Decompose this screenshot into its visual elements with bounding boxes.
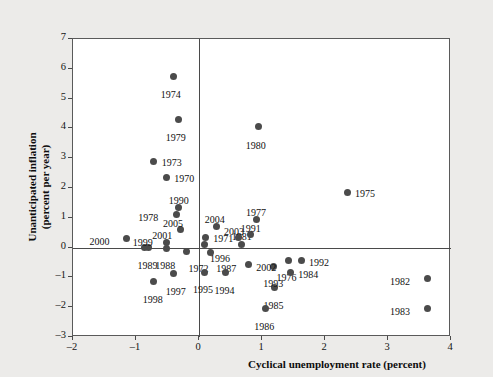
data-point-label: 1997 xyxy=(166,286,186,297)
data-point xyxy=(201,241,208,248)
data-point-label: 2003 xyxy=(224,226,244,237)
y-tick-7 xyxy=(68,38,72,39)
y-tick--3 xyxy=(68,336,72,337)
y-tick-2 xyxy=(68,187,72,188)
data-point xyxy=(262,305,269,312)
data-point xyxy=(298,257,305,264)
y-tick-label-1: 1 xyxy=(44,210,66,221)
y-tick-label-7: 7 xyxy=(44,31,66,42)
y-tick--1 xyxy=(68,276,72,277)
data-point-label: 2004 xyxy=(205,214,225,225)
data-point-label: 1989 xyxy=(138,260,158,271)
data-point-label: 1970 xyxy=(174,173,194,184)
x-tick-0 xyxy=(198,336,199,340)
data-point-label: 1990 xyxy=(169,195,189,206)
data-point-label: 1974 xyxy=(161,89,181,100)
data-point-label: 2001 xyxy=(152,230,172,241)
y-tick-label-5: 5 xyxy=(44,91,66,102)
plot-area: 1970197119721973197419751976197719781979… xyxy=(72,38,450,336)
data-point xyxy=(170,73,177,80)
data-point xyxy=(201,269,208,276)
y-tick-label-4: 4 xyxy=(44,120,66,131)
x-tick--2 xyxy=(72,336,73,340)
data-point-label: 1986 xyxy=(254,321,274,332)
y-tick-0 xyxy=(68,247,72,248)
data-point xyxy=(344,189,351,196)
x-tick-2 xyxy=(324,336,325,340)
data-point xyxy=(150,278,157,285)
y-tick-3 xyxy=(68,157,72,158)
y-tick-label-0: 0 xyxy=(44,240,66,251)
data-point xyxy=(285,257,292,264)
y-tick-6 xyxy=(68,68,72,69)
x-tick-label-2: 2 xyxy=(314,341,334,352)
data-point-label: 2002 xyxy=(256,262,276,273)
data-point-label: 1984 xyxy=(298,269,318,280)
data-point-label: 1998 xyxy=(143,294,163,305)
x-tick-1 xyxy=(261,336,262,340)
data-point-label: 1973 xyxy=(162,157,182,168)
y-tick-label-6: 6 xyxy=(44,61,66,72)
data-point-label: 1977 xyxy=(246,207,266,218)
data-point-label: 1993 xyxy=(263,278,283,289)
data-point xyxy=(287,269,294,276)
data-point xyxy=(202,234,209,241)
data-point-label: 1996 xyxy=(210,253,230,264)
data-point xyxy=(424,305,431,312)
data-point xyxy=(424,275,431,282)
y-tick-label--1: –1 xyxy=(44,269,66,280)
x-tick-label--1: –1 xyxy=(125,341,145,352)
x-axis-title: Cyclical unemployment rate (percent) xyxy=(248,358,426,370)
data-point-label: 1979 xyxy=(166,132,186,143)
x-tick-label-3: 3 xyxy=(377,341,397,352)
data-point xyxy=(163,245,170,252)
data-point-label: 1992 xyxy=(309,257,329,268)
figure-background: Unanticipated inflation(percent per year… xyxy=(0,0,493,377)
y-tick-label--2: –2 xyxy=(44,299,66,310)
data-point xyxy=(175,116,182,123)
y-tick-5 xyxy=(68,98,72,99)
data-point-label: 1978 xyxy=(138,212,158,223)
x-tick-label-4: 4 xyxy=(440,341,460,352)
data-point-label: 1995 xyxy=(193,284,213,295)
data-point xyxy=(170,270,177,277)
y-axis-title-line1: Unanticipated inflation xyxy=(26,132,38,241)
zero-line-horizontal xyxy=(73,248,451,249)
data-point-label: 1983 xyxy=(390,306,410,317)
data-point xyxy=(222,269,229,276)
y-tick-1 xyxy=(68,217,72,218)
x-tick-4 xyxy=(450,336,451,340)
y-tick-label-2: 2 xyxy=(44,180,66,191)
data-point xyxy=(183,248,190,255)
data-point-label: 1975 xyxy=(355,188,375,199)
data-point-label: 1994 xyxy=(214,285,234,296)
x-tick-label-0: 0 xyxy=(188,341,208,352)
y-tick-label--3: –3 xyxy=(44,329,66,340)
x-tick-label-1: 1 xyxy=(251,341,271,352)
data-point xyxy=(255,123,262,130)
x-tick-3 xyxy=(387,336,388,340)
data-point xyxy=(150,158,157,165)
data-point xyxy=(245,261,252,268)
data-point xyxy=(123,235,130,242)
data-point-label: 1999 xyxy=(133,237,153,248)
data-point-label: 1982 xyxy=(390,276,410,287)
x-tick--1 xyxy=(135,336,136,340)
y-tick-4 xyxy=(68,127,72,128)
data-point-label: 2005 xyxy=(163,218,183,229)
data-point-label: 1980 xyxy=(246,140,266,151)
data-point-label: 2000 xyxy=(90,236,110,247)
y-tick-label-3: 3 xyxy=(44,150,66,161)
x-tick-label--2: –2 xyxy=(62,341,82,352)
y-tick--2 xyxy=(68,306,72,307)
data-point xyxy=(163,174,170,181)
